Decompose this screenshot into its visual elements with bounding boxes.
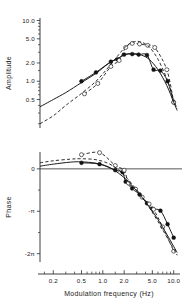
data-point-amplitude-open-8 xyxy=(153,45,157,49)
curve-phase-fit-dashed xyxy=(40,159,177,256)
markers-phase-open-circles-dashed xyxy=(79,151,175,254)
figure-bode-plot: 0.51.02.05.010.0Amplitude0-π-2π0.20.51.0… xyxy=(0,0,184,308)
x-tick-label-4: 5.0 xyxy=(148,277,158,284)
y-tick-label-phase-1: -π xyxy=(28,207,35,214)
curve-amplitude-fit-solid xyxy=(40,54,177,111)
panel-amplitude: 0.51.02.05.010.0Amplitude xyxy=(5,17,177,128)
data-point-phase-open-1 xyxy=(98,151,102,155)
x-tick-label-2: 1.0 xyxy=(98,277,108,284)
data-point-amplitude-open-1 xyxy=(96,81,100,85)
data-point-phase-open-0 xyxy=(79,153,83,157)
y-axis-title-phase: Phase xyxy=(5,196,12,217)
data-point-amplitude-filled-5 xyxy=(130,52,134,56)
data-point-amplitude-open-3 xyxy=(117,58,121,62)
y-tick-label-phase-2: -2π xyxy=(25,250,35,257)
y-tick-label-amplitude-2: 2.0 xyxy=(26,59,36,66)
data-point-amplitude-open-0 xyxy=(82,92,86,96)
curve-phase-open-circles-dashed xyxy=(81,152,173,251)
x-tick-label-3: 2.0 xyxy=(120,277,130,284)
x-tick-label-1: 0.5 xyxy=(77,277,87,284)
x-tick-label-5: 10.0 xyxy=(167,277,180,284)
data-point-amplitude-filled-8 xyxy=(152,68,156,72)
panel-phase: 0-π-2π0.20.51.02.05.010.0Modulation freq… xyxy=(5,151,182,298)
curve-phase-fit-solid xyxy=(40,162,177,253)
x-tick-label-0: 0.2 xyxy=(49,277,59,284)
data-point-amplitude-open-2 xyxy=(109,64,113,68)
y-tick-label-amplitude-1: 1.0 xyxy=(26,77,36,84)
data-point-phase-filled-11 xyxy=(172,236,176,240)
y-tick-label-amplitude-0: 0.5 xyxy=(26,96,36,103)
curve-amplitude-fit-dashed xyxy=(40,41,177,123)
panel-content-phase xyxy=(40,151,177,256)
data-point-phase-filled-9 xyxy=(159,209,163,213)
markers-amplitude-filled-circles-solid xyxy=(80,52,176,104)
data-point-phase-open-3 xyxy=(122,168,126,172)
curve-phase-filled-circles-solid xyxy=(81,163,173,238)
data-point-amplitude-open-6 xyxy=(138,42,142,46)
y-tick-label-amplitude-4: 10.0 xyxy=(22,17,35,24)
y-axis-title-amplitude: Amplitude xyxy=(5,56,13,90)
data-point-phase-filled-10 xyxy=(166,222,170,226)
data-point-amplitude-open-9 xyxy=(165,68,169,72)
y-tick-label-amplitude-3: 5.0 xyxy=(26,35,36,42)
y-tick-label-phase-0: 0 xyxy=(31,165,35,172)
panel-content-amplitude xyxy=(40,41,177,123)
curve-amplitude-filled-circles-solid xyxy=(81,54,173,102)
x-axis-title: Modulation frequency (Hz) xyxy=(64,290,154,298)
plot-canvas: 0.51.02.05.010.0Amplitude0-π-2π0.20.51.0… xyxy=(0,0,184,308)
